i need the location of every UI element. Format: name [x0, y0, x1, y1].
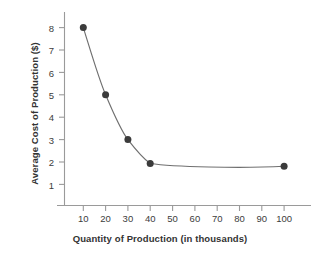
- x-tick-label: 100: [271, 213, 297, 224]
- data-point: [102, 91, 109, 98]
- y-tick-label: 8: [40, 23, 54, 34]
- y-tick-label: 7: [40, 45, 54, 56]
- data-point: [124, 136, 131, 143]
- y-tick-label: 1: [40, 180, 54, 191]
- x-axis-ticks: [83, 206, 284, 212]
- data-series-markers: [80, 24, 288, 170]
- y-tick-label: 3: [40, 135, 54, 146]
- axis-lines: [57, 12, 311, 206]
- data-point: [281, 163, 288, 170]
- y-axis-title: Average Cost of Production ($): [29, 14, 40, 214]
- chart-container: 1 2 3 4 5 6 7 8 10 20 30 40 50 60 70 80 …: [0, 0, 320, 260]
- data-point: [80, 24, 87, 31]
- y-tick-label: 2: [40, 157, 54, 168]
- y-tick-label: 4: [40, 112, 54, 123]
- y-tick-label: 5: [40, 90, 54, 101]
- x-axis-title: Quantity of Production (in thousands): [0, 233, 320, 244]
- y-tick-label: 6: [40, 68, 54, 79]
- y-axis-ticks: [59, 28, 65, 185]
- data-point: [147, 160, 154, 167]
- data-series-line: [83, 28, 284, 168]
